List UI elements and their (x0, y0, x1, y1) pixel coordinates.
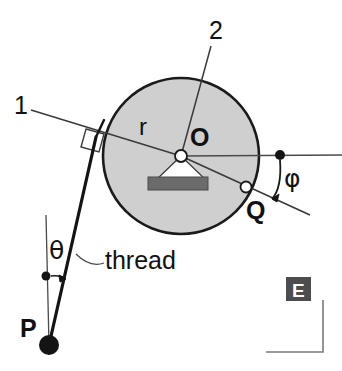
label-thread: thread (105, 248, 176, 273)
label-line-1: 1 (14, 93, 28, 118)
physics-diagram-canvas: 1 2 r O Q P φ θ thread E (0, 0, 342, 371)
phi-angle-arc (272, 160, 280, 199)
corner-rule-line (266, 300, 323, 352)
label-angle-theta: θ (49, 238, 64, 263)
label-point-q: Q (246, 198, 265, 223)
horizontal-reference-line (181, 155, 342, 156)
label-center-o: O (190, 125, 209, 150)
point-q-marker (241, 182, 252, 193)
theta-vertex-dot (42, 272, 51, 281)
load-block-shape (148, 177, 208, 190)
thread-line-upper-contact (96, 120, 104, 137)
label-angle-phi: φ (284, 166, 301, 191)
label-point-p: P (20, 316, 37, 341)
thread-label-leader-line (76, 254, 104, 264)
point-p-ball-marker (39, 335, 59, 355)
phi-vertex-dot (275, 150, 285, 160)
center-point-o-marker (175, 150, 187, 162)
label-radius-r: r (139, 115, 147, 139)
label-corner-badge-e: E (292, 281, 305, 300)
label-line-2: 2 (209, 18, 223, 43)
